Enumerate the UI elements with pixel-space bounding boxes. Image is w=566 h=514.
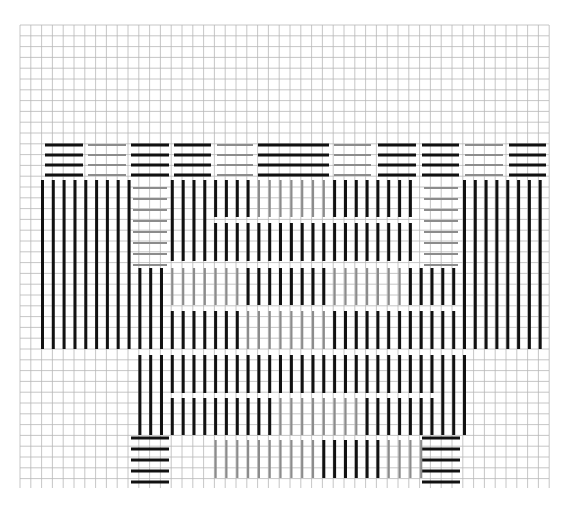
stitch-chart bbox=[0, 0, 566, 514]
